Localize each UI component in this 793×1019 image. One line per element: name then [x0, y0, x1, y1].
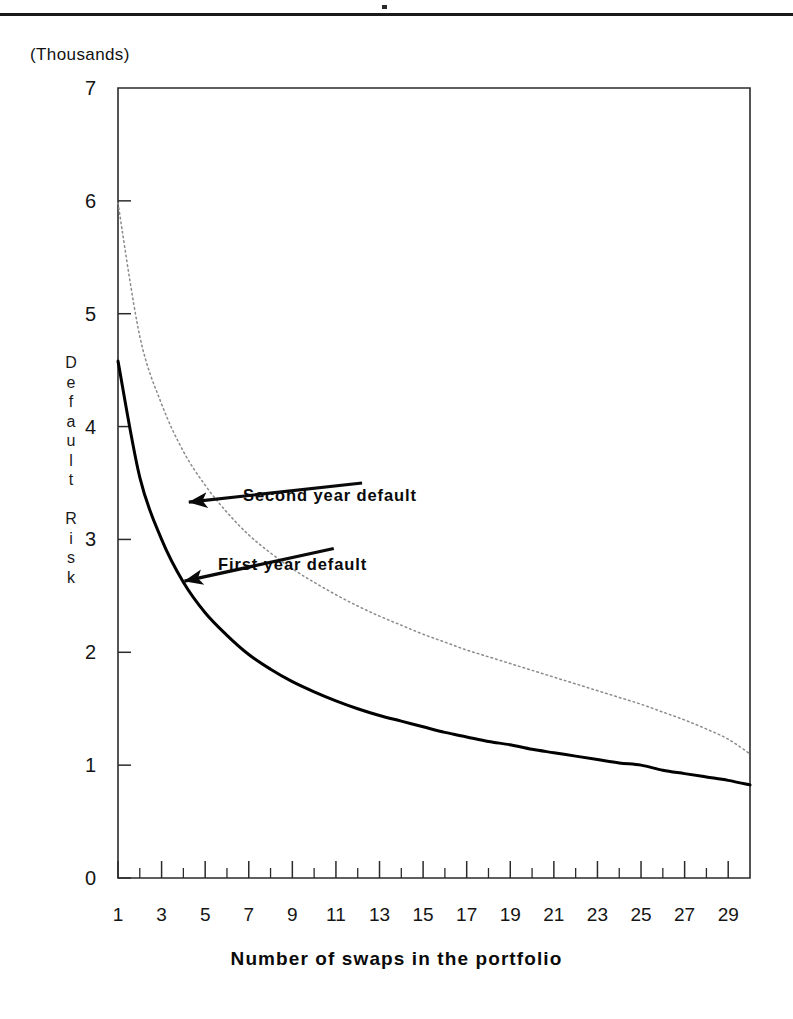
x-axis-tick-label: 27 [674, 904, 695, 926]
x-axis-tick-label: 13 [369, 904, 390, 926]
x-axis-tick-label: 7 [243, 904, 254, 926]
y-axis-tick-label: 6 [72, 189, 96, 212]
y-axis-tick-label: 1 [72, 754, 96, 777]
x-axis-tick-label: 19 [500, 904, 521, 926]
x-axis-tick-label: 23 [587, 904, 608, 926]
chart-page: (Thousands) D e f a u l t R i s k 012345… [0, 0, 793, 1019]
series-line-second-year-default [118, 203, 750, 754]
y-axis-tick-label: 3 [72, 528, 96, 551]
series-line-first-year-default [118, 361, 750, 785]
y-axis-tick-label: 0 [72, 867, 96, 890]
x-axis-tick-label: 3 [156, 904, 167, 926]
y-axis-tick-label: 4 [72, 415, 96, 438]
y-axis-tick-label: 5 [72, 302, 96, 325]
x-axis-tick-label: 25 [630, 904, 651, 926]
y-axis-tick-label: 7 [72, 77, 96, 100]
default-risk-line-chart [0, 0, 793, 1019]
x-axis-tick-label: 15 [413, 904, 434, 926]
x-axis-tick-label: 21 [543, 904, 564, 926]
x-axis-tick-label: 17 [456, 904, 477, 926]
plot-frame [118, 88, 750, 878]
x-axis-tick-label: 9 [287, 904, 298, 926]
x-axis-tick-label: 11 [326, 904, 346, 926]
x-axis-tick-label: 5 [200, 904, 211, 926]
x-axis-tick-label: 29 [718, 904, 739, 926]
x-axis-title: Number of swaps in the portfolio [0, 948, 793, 970]
y-axis-tick-label: 2 [72, 641, 96, 664]
annotation-second-year-default: Second year default [243, 486, 417, 505]
annotation-first-year-default: First year default [218, 555, 367, 574]
x-axis-tick-label: 1 [113, 904, 124, 926]
